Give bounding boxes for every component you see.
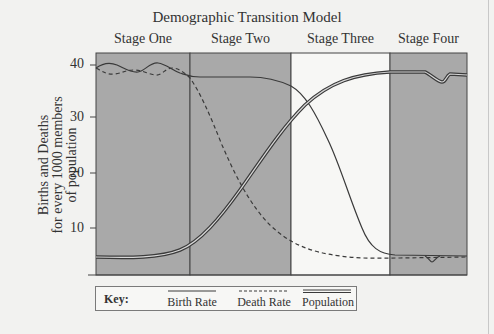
legend-key-label: Key:: [104, 292, 129, 307]
double-line-swatch-icon: [302, 289, 352, 293]
stage-two-region: [190, 53, 291, 275]
dashed-line-swatch-icon: [236, 289, 292, 293]
plot-area: [0, 0, 494, 334]
legend-item-birth-rate: Birth Rate: [166, 289, 218, 310]
legend-item-death-rate: Death Rate: [236, 289, 292, 310]
legend: Key: Birth Rate Death Rate Population: [95, 286, 357, 311]
stage-four-region: [390, 53, 467, 275]
legend-label-birth-rate: Birth Rate: [166, 295, 218, 310]
legend-item-population: Population: [302, 289, 352, 310]
solid-line-swatch-icon: [166, 289, 218, 293]
legend-label-population: Population: [302, 295, 352, 310]
legend-label-death-rate: Death Rate: [236, 295, 292, 310]
stage-one-region: [96, 53, 190, 275]
stage-three-region: [291, 53, 390, 275]
